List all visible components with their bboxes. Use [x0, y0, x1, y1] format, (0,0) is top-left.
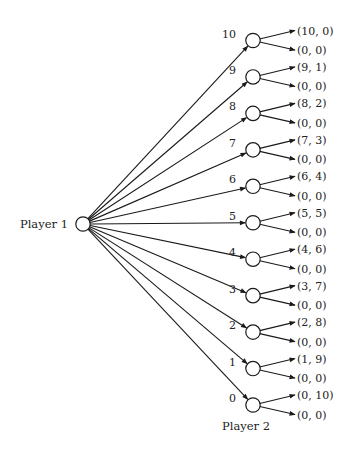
accept-edge [260, 140, 295, 149]
reject-edge [260, 370, 295, 378]
accept-edge [260, 67, 295, 76]
reject-payoff: (0, 0) [297, 153, 327, 166]
reject-payoff: (0, 0) [297, 336, 327, 349]
offer-label: 1 [229, 356, 236, 369]
reject-payoff: (0, 0) [297, 190, 327, 203]
player-2-node-4 [246, 252, 260, 266]
accept-edge [260, 103, 295, 112]
accept-payoff: (2, 8) [297, 316, 327, 329]
accept-payoff: (3, 7) [297, 280, 327, 293]
player-2-node-3 [246, 288, 260, 302]
accept-payoff: (10, 0) [297, 25, 334, 38]
edges [88, 31, 295, 415]
edge-offer-3 [90, 227, 246, 293]
reject-edge [260, 261, 295, 269]
reject-edge [260, 224, 295, 232]
accept-payoff: (8, 2) [297, 97, 327, 110]
edge-offer-4 [90, 225, 245, 257]
offer-label: 3 [229, 283, 236, 296]
accept-payoff: (7, 3) [297, 134, 327, 147]
player-2-node-7 [246, 143, 260, 157]
offer-label: 2 [229, 319, 236, 332]
reject-edge [260, 78, 295, 86]
offer-label: 5 [229, 210, 236, 223]
offer-label: 8 [229, 100, 236, 113]
edge-offer-2 [89, 228, 246, 328]
player-2-node-6 [246, 179, 260, 193]
accept-payoff: (6, 4) [297, 170, 327, 183]
player-1-node [76, 217, 90, 231]
edge-offer-6 [90, 188, 245, 222]
reject-edge [260, 188, 295, 196]
accept-edge [260, 176, 295, 185]
player-2-node-2 [246, 325, 260, 339]
offer-label: 6 [229, 173, 236, 186]
player-2-node-0 [246, 398, 260, 412]
reject-payoff: (0, 0) [297, 263, 327, 276]
player-2-node-8 [246, 106, 260, 120]
offer-label: 4 [229, 246, 236, 259]
reject-edge [260, 297, 295, 305]
edge-offer-5 [90, 223, 245, 224]
edge-offer-0 [88, 229, 248, 399]
reject-payoff: (0, 0) [297, 226, 327, 239]
accept-edge [260, 31, 295, 40]
player-2-node-10 [246, 33, 260, 47]
accept-edge [260, 249, 295, 258]
player-2-node-9 [246, 70, 260, 84]
accept-payoff: (5, 5) [297, 207, 327, 220]
nodes [246, 33, 260, 412]
reject-edge [260, 151, 295, 159]
offer-label: 7 [229, 137, 236, 150]
accept-payoff: (1, 9) [297, 353, 327, 366]
accept-edge [260, 286, 295, 295]
reject-edge [260, 42, 295, 50]
reject-payoff: (0, 0) [297, 80, 327, 93]
accept-edge [260, 213, 295, 222]
reject-edge [260, 115, 295, 123]
accept-edge [260, 395, 295, 404]
game-tree: 10(10, 0)(0, 0)9(9, 1)(0, 0)8(8, 2)(0, 0… [0, 0, 350, 451]
offer-label: 0 [229, 392, 236, 405]
accept-payoff: (0, 10) [297, 389, 334, 402]
player-2-label: Player 2 [222, 419, 270, 433]
offer-label: 10 [222, 28, 236, 41]
accept-edge [260, 359, 295, 368]
edge-offer-1 [88, 229, 247, 364]
accept-payoff: (4, 6) [297, 243, 327, 256]
player-2-node-5 [246, 216, 260, 230]
reject-payoff: (0, 0) [297, 44, 327, 57]
player-2-node-1 [246, 361, 260, 375]
accept-edge [260, 322, 295, 331]
edge-offer-7 [90, 153, 246, 221]
reject-payoff: (0, 0) [297, 409, 327, 422]
edge-offer-9 [88, 82, 247, 219]
reject-payoff: (0, 0) [297, 117, 327, 130]
reject-payoff: (0, 0) [297, 372, 327, 385]
reject-edge [260, 334, 295, 342]
reject-payoff: (0, 0) [297, 299, 327, 312]
offer-label: 9 [229, 64, 236, 77]
player-1-label: Player 1 [20, 217, 68, 231]
accept-payoff: (9, 1) [297, 61, 327, 74]
reject-edge [260, 407, 295, 415]
